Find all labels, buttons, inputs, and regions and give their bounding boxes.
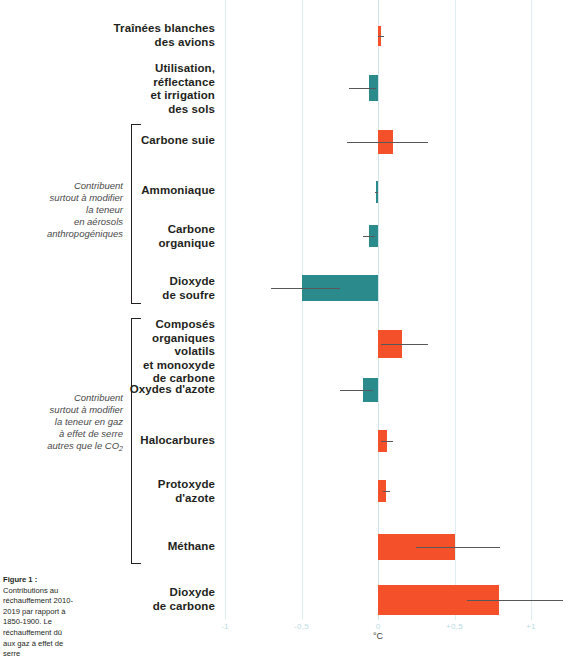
row-label-line: Ammoniaque — [141, 184, 215, 198]
row-label: Utilisation,réflectanceet irrigationdes … — [150, 62, 215, 116]
row-label-line: Utilisation, — [150, 62, 215, 76]
error-bar — [383, 491, 391, 492]
group-note-line: autres que le CO2 — [5, 440, 123, 453]
gridline-1 — [531, 0, 532, 620]
row-label-line: Dioxyde — [153, 586, 215, 600]
error-bar — [416, 547, 500, 548]
subscript: 2 — [119, 445, 123, 452]
error-bar — [381, 441, 393, 442]
x-tick-label: +0,5 — [446, 622, 463, 631]
error-bar — [378, 36, 384, 37]
row-label-line: de carbone — [153, 600, 215, 614]
row-label: Dioxydede carbone — [153, 586, 215, 613]
group-note-line: la teneur en gaz — [5, 416, 123, 428]
error-bar — [347, 142, 428, 143]
group-note-line: à effet de serre — [5, 428, 123, 440]
gridline-05 — [455, 0, 456, 620]
row-label-line: Dioxyde — [162, 275, 215, 289]
figure-caption: Figure 1 : Contributions au réchauffemen… — [3, 575, 75, 660]
error-bar — [467, 600, 563, 601]
row-label-line: Oxydes d'azote — [130, 383, 215, 397]
row-label-line: organiques — [143, 332, 215, 346]
group-bracket-aerosols — [131, 124, 141, 304]
gridline-05 — [302, 0, 303, 620]
row-label-line: Protoxyde — [158, 478, 215, 492]
group-note-line: en aérosols — [5, 216, 123, 228]
row-label-line: Carbone — [159, 223, 216, 237]
group-note-line: surtout à modifier — [5, 192, 123, 204]
row-label-line: volatils — [143, 345, 215, 359]
group-note-aerosols: Contribuentsurtout à modifierla teneuren… — [5, 180, 123, 240]
row-label-line: des avions — [114, 36, 215, 50]
row-label-line: réflectance — [150, 76, 215, 90]
row-label-line: des sols — [150, 103, 215, 117]
row-label-line: Halocarbures — [140, 434, 215, 448]
row-label: Composésorganiquesvolatilset monoxydede … — [143, 318, 215, 386]
row-label-line: d'azote — [158, 492, 215, 506]
row-label-line: Méthane — [168, 540, 215, 554]
row-label: Halocarbures — [140, 434, 215, 448]
row-label: Carbone suie — [141, 134, 215, 148]
group-note-line: Contribuent — [5, 180, 123, 192]
row-label: Traînées blanchesdes avions — [114, 22, 215, 49]
figure-caption-title: Figure 1 : — [3, 575, 75, 586]
x-tick-label: 0 — [376, 622, 381, 631]
group-note-line: surtout à modifier — [5, 404, 123, 416]
row-label: Dioxydede soufre — [162, 275, 215, 302]
group-note-line: anthropogéniques — [5, 228, 123, 240]
group-note-greenhouse: Contribuentsurtout à modifierla teneur e… — [5, 392, 123, 453]
row-label: Ammoniaque — [141, 184, 215, 198]
row-label-line: et irrigation — [150, 89, 215, 103]
error-bar — [271, 288, 340, 289]
x-tick-label: +1 — [526, 622, 536, 631]
row-label: Méthane — [168, 540, 215, 554]
error-bar — [349, 88, 377, 89]
error-bar — [340, 390, 374, 391]
gridline-1 — [225, 0, 226, 620]
error-bar — [381, 344, 428, 345]
group-note-line: la teneur — [5, 204, 123, 216]
x-tick-label: -1 — [221, 622, 229, 631]
row-label: Protoxyded'azote — [158, 478, 215, 505]
row-label: Carboneorganique — [159, 223, 216, 250]
row-label-line: de soufre — [162, 289, 215, 303]
row-label-line: Traînées blanches — [114, 22, 215, 36]
row-label-line: Carbone suie — [141, 134, 215, 148]
gridline-0 — [378, 0, 379, 620]
x-tick-label: -0,5 — [294, 622, 309, 631]
group-note-line: Contribuent — [5, 392, 123, 404]
x-axis-unit-label: °C — [373, 631, 383, 641]
error-bar — [363, 236, 375, 237]
row-label-line: organique — [159, 237, 216, 251]
error-bar — [375, 192, 378, 193]
row-label-line: Composés — [143, 318, 215, 332]
figure-container: -1-0,50+0,5+1°C Traînées blanchesdes avi… — [0, 0, 578, 668]
row-label-line: et monoxyde — [143, 359, 215, 373]
group-bracket-greenhouse — [131, 318, 141, 564]
plot-area: -1-0,50+0,5+1°C — [225, 0, 578, 620]
row-label: Oxydes d'azote — [130, 383, 215, 397]
figure-caption-body: Contributions au réchauffement 2010-2019… — [3, 586, 73, 659]
